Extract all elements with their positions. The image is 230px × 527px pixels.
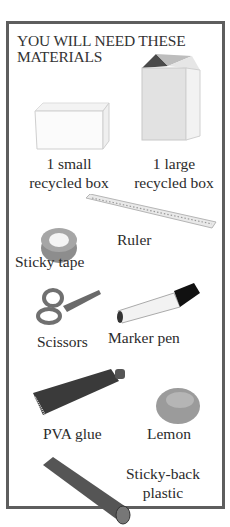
label-line: 1 small [29, 154, 109, 173]
large-box-icon [136, 52, 206, 144]
label-pva-glue: PVA glue [43, 424, 102, 443]
plastic-roll-icon [41, 457, 131, 527]
label-large-box: 1 large recycled box [131, 154, 217, 192]
label-scissors: Scissors [37, 332, 88, 351]
label-marker-pen: Marker pen [108, 328, 180, 347]
label-line: 1 large [131, 154, 217, 173]
label-line: plastic [123, 483, 203, 502]
materials-panel: YOU WILL NEED THESE MATERIALS 1 small re… [6, 21, 225, 509]
glue-tube-icon [31, 367, 127, 419]
lemon-icon [150, 386, 210, 428]
label-line: recycled box [29, 173, 109, 192]
label-sticky-tape: Sticky tape [15, 252, 84, 271]
label-ruler: Ruler [117, 230, 151, 249]
label-small-box: 1 small recycled box [29, 154, 109, 192]
small-box-icon [31, 95, 113, 153]
label-line: Sticky-back [123, 464, 203, 483]
marker-pen-icon [114, 281, 204, 326]
scissors-icon [35, 284, 103, 329]
label-line: recycled box [131, 173, 217, 192]
label-lemon: Lemon [147, 424, 191, 443]
ruler-icon [84, 194, 219, 234]
label-sticky-back-plastic: Sticky-back plastic [123, 464, 203, 502]
